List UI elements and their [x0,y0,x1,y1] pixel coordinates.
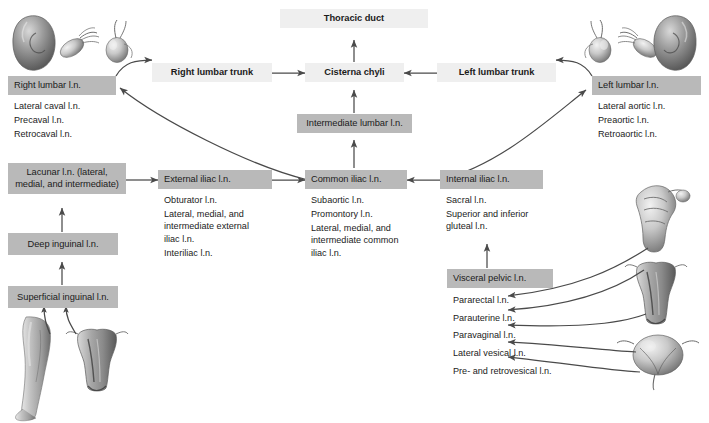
node-right-lumbar-trunk[interactable]: Right lumbar trunk [152,63,272,82]
sublist-item: Subaortic l.n. [311,194,419,206]
sublist-item: Promontory l.n. [311,208,419,220]
sublist-item: Paravaginal l.n. [453,327,561,343]
node-cisterna-chyli[interactable]: Cisterna chyli [305,63,404,82]
sublist-item: Sacral l.n. [446,194,552,206]
node-left-lumbar-trunk[interactable]: Left lumbar trunk [437,63,556,82]
node-thoracic-duct[interactable]: Thoracic duct [280,9,428,28]
node-deep-inguinal[interactable]: Deep inguinal l.n. [8,233,118,255]
sublist-item: Retrocaval l.n. [14,128,112,140]
node-common-iliac[interactable]: Common iliac l.n. [305,170,407,189]
sublist-item: Lateral caval l.n. [14,100,112,112]
node-visceral-pelvic[interactable]: Visceral pelvic l.n. [447,269,553,288]
node-intermediate-lumbar[interactable]: Intermediate lumbar l.n. [297,114,412,133]
sublist-item: Retroaortic l.n. [598,128,698,140]
node-external-iliac[interactable]: External iliac l.n. [158,170,272,189]
node-lacunar[interactable]: Lacunar l.n. (lateral, medial, and inter… [8,163,126,194]
sublist-item: Lateral, medial, and intermediate common… [311,222,419,259]
sublist-item: Superior and inferior gluteal l.n. [446,208,552,233]
sublist-right-lumbar: Lateral caval l.n. Precaval l.n. Retroca… [8,100,118,142]
sublist-external-iliac: Obturator l.n. Lateral, medial, and inte… [158,194,278,261]
sublist-item: Lateral aortic l.n. [598,100,698,112]
node-superficial-inguinal[interactable]: Superficial inguinal l.n. [8,286,118,308]
sublist-item: Pre- and retrovesical l.n. [453,363,561,379]
sublist-item: Pararectal l.n. [453,292,561,308]
sublist-item: Lateral, medial, and intermediate extern… [164,208,272,245]
sublist-internal-iliac: Sacral l.n. Superior and inferior glutea… [440,194,558,234]
sublist-item: Interiliac l.n. [164,247,272,259]
sublist-item: Parauterine l.n. [453,310,561,326]
node-layer: Thoracic duct Cisterna chyli Right lumba… [0,0,709,423]
diagram-canvas: Thoracic duct Cisterna chyli Right lumba… [0,0,709,423]
sublist-visceral-pelvic: Pararectal l.n. Parauterine l.n. Paravag… [447,292,567,381]
node-internal-iliac[interactable]: Internal iliac l.n. [440,170,543,189]
sublist-item: Obturator l.n. [164,194,272,206]
sublist-common-iliac: Subaortic l.n. Promontory l.n. Lateral, … [305,194,425,261]
sublist-left-lumbar: Lateral aortic l.n. Preaortic l.n. Retro… [592,100,704,142]
node-left-lumbar[interactable]: Left lumbar l.n. [592,76,701,95]
node-right-lumbar[interactable]: Right lumbar l.n. [8,76,116,95]
sublist-item: Preaortic l.n. [598,114,698,126]
sublist-item: Precaval l.n. [14,114,112,126]
sublist-item: Lateral vesical l.n. [453,345,561,361]
